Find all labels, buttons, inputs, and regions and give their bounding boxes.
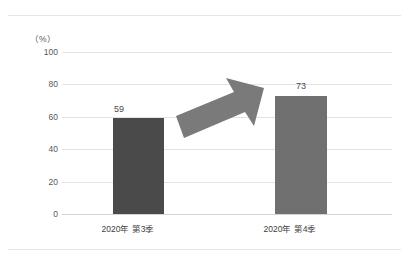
y-tick-20: 20 bbox=[20, 177, 58, 187]
growth-arrow-icon bbox=[172, 74, 268, 140]
axis-baseline bbox=[62, 214, 392, 215]
y-axis-unit-label: （%） bbox=[30, 32, 56, 44]
chart-frame: （%） 100 80 60 40 20 0 59 73 2020年 第3季 20… bbox=[0, 0, 409, 263]
data-label-2020-q3: 59 bbox=[98, 104, 140, 114]
title-strip bbox=[96, 1, 318, 7]
category-label-2020-q4: 2020年 第4季 bbox=[240, 222, 340, 234]
y-tick-0: 0 bbox=[20, 209, 58, 219]
bottom-divider bbox=[8, 249, 401, 250]
y-tick-60: 60 bbox=[20, 112, 58, 122]
bar-2020-q4[interactable] bbox=[275, 96, 327, 214]
y-tick-100: 100 bbox=[20, 47, 58, 57]
bar-2020-q3[interactable] bbox=[113, 118, 164, 214]
y-tick-40: 40 bbox=[20, 144, 58, 154]
category-label-2020-q3: 2020年 第3季 bbox=[78, 222, 178, 234]
top-divider bbox=[8, 15, 401, 16]
data-label-2020-q4: 73 bbox=[280, 81, 322, 91]
growth-arrow bbox=[172, 74, 268, 144]
y-tick-80: 80 bbox=[20, 79, 58, 89]
